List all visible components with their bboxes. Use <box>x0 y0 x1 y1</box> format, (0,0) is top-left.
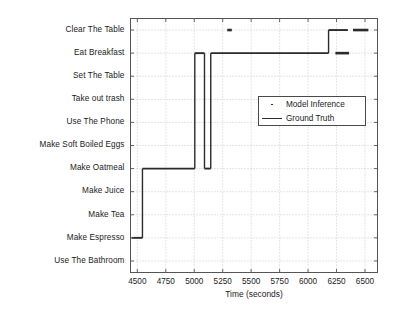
y-axis-label: Make Oatmeal <box>70 163 124 173</box>
y-axis-label: Take out trash <box>72 94 125 104</box>
y-axis-label: Clear The Table <box>66 25 125 35</box>
y-axis-label: Use The Phone <box>66 117 124 127</box>
y-axis-label: Eat Breakfast <box>74 48 124 58</box>
y-axis-label: Make Espresso <box>67 233 125 243</box>
y-axis-label: Set The Table <box>73 71 125 81</box>
legend-swatch-shape <box>271 104 273 106</box>
legend-entry: Ground Truth <box>261 112 334 125</box>
x-axis-title: Time (seconds) <box>131 289 378 299</box>
legend-label: Model Inference <box>286 100 345 109</box>
legend-swatch-shape <box>262 118 282 119</box>
legend-line-marker-icon <box>261 114 283 124</box>
x-axis-tick-label: 6500 <box>345 277 385 287</box>
y-axis-label: Make Juice <box>82 186 124 196</box>
y-axis-label: Make Tea <box>88 210 124 220</box>
legend-dot-marker-icon <box>261 100 283 110</box>
y-axis-label: Make Soft Boiled Eggs <box>40 140 125 150</box>
chart-figure: Clear The TableEat BreakfastSet The Tabl… <box>0 0 399 312</box>
legend-label: Ground Truth <box>286 114 334 123</box>
legend-entry: Model Inference <box>261 98 345 111</box>
y-axis-label: Use The Bathroom <box>54 256 124 266</box>
